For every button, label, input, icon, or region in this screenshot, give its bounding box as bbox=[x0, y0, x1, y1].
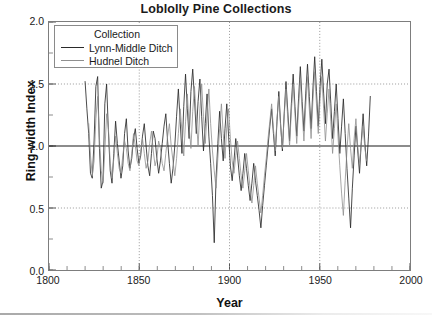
y-tick-label: 1.5 bbox=[4, 79, 44, 89]
data-series-layer bbox=[85, 57, 370, 243]
legend[interactable]: Collection Lynn-Middle Ditch Hudnel Ditc… bbox=[54, 25, 178, 68]
x-tick-label: 2000 bbox=[383, 274, 432, 286]
legend-label-hudnel-ditch: Hudnel Ditch bbox=[89, 55, 149, 67]
legend-swatch-hudnel-ditch bbox=[61, 60, 84, 61]
legend-item-lynn-middle-ditch[interactable]: Lynn-Middle Ditch bbox=[61, 41, 179, 54]
legend-title: Collection bbox=[55, 28, 179, 40]
x-axis-title: Year bbox=[48, 296, 411, 310]
y-tick-label: 1.0 bbox=[4, 141, 44, 151]
legend-label-lynn-middle-ditch: Lynn-Middle Ditch bbox=[89, 42, 173, 54]
legend-item-hudnel-ditch[interactable]: Hudnel Ditch bbox=[61, 54, 179, 67]
x-axis-tick-labels: 18001850190019502000 bbox=[48, 274, 411, 290]
x-tick-label: 1900 bbox=[202, 274, 258, 286]
scan-artifact bbox=[0, 313, 432, 315]
x-tick-label: 1850 bbox=[111, 274, 167, 286]
x-tick-label: 1800 bbox=[20, 274, 76, 286]
legend-swatch-lynn-middle-ditch bbox=[61, 47, 84, 48]
series-line-hudnel-ditch bbox=[89, 72, 367, 216]
x-tick-label: 1950 bbox=[292, 274, 348, 286]
series-line-lynn-middle-ditch bbox=[85, 57, 370, 243]
chart-figure: Loblolly Pine Collections Ring-width Ind… bbox=[0, 0, 432, 322]
y-tick-label: 0.5 bbox=[4, 204, 44, 214]
y-tick-label: 2.0 bbox=[4, 16, 44, 26]
page-title: Loblolly Pine Collections bbox=[0, 2, 432, 16]
y-axis-tick-labels: 0.00.51.01.52.0 bbox=[0, 21, 44, 271]
